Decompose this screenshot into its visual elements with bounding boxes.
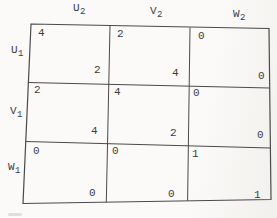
cell-v1-u2-top-left-value: 2 — [34, 85, 41, 96]
column-header-u2-sub: 2 — [80, 7, 85, 17]
cell-u1-u2-top-left-value: 4 — [38, 28, 45, 39]
cell-v1-w2-bottom-right-value: 0 — [257, 130, 264, 141]
scan-artifact — [8, 213, 22, 216]
cell-w1-v2-top-left-value: 0 — [112, 146, 119, 157]
row-header-v1-base: V — [10, 105, 17, 117]
column-header-v2: V2 — [150, 6, 162, 17]
cell-v1-w2-top-left-value: 0 — [193, 88, 200, 99]
payoff-matrix-figure: U2 V2 W2 U1 V1 W1 4 2 2 4 0 0 2 4 4 2 0 … — [0, 0, 277, 218]
cell-v1-v2-bottom-right-value: 2 — [170, 128, 177, 139]
cell-u1-u2-bottom-right-value: 2 — [94, 65, 101, 76]
column-header-u2: U2 — [73, 3, 85, 14]
column-header-v2-base: V — [150, 5, 157, 17]
row-divider-1 — [28, 83, 269, 89]
row-divider-2 — [26, 142, 271, 149]
row-header-w1-sub: 1 — [15, 166, 20, 176]
cell-u1-w2-top-left-value: 0 — [198, 31, 205, 42]
row-header-w1: W1 — [8, 162, 20, 173]
cell-w1-v2-bottom-right-value: 0 — [168, 189, 175, 200]
row-header-v1: V1 — [10, 106, 22, 117]
cell-v1-u2-bottom-right-value: 4 — [91, 126, 98, 137]
row-header-w1-base: W — [8, 161, 15, 173]
row-header-u1-sub: 1 — [18, 49, 23, 59]
column-header-w2: W2 — [233, 9, 245, 20]
column-header-w2-base: W — [233, 8, 240, 20]
matrix-outer-border — [23, 24, 271, 204]
cell-u1-v2-bottom-right-value: 4 — [172, 68, 179, 79]
row-header-u1: U1 — [11, 45, 23, 56]
row-header-u1-base: U — [11, 44, 18, 56]
cell-w1-u2-bottom-right-value: 0 — [89, 188, 96, 199]
cell-u1-w2-bottom-right-value: 0 — [258, 71, 265, 82]
column-header-u2-base: U — [73, 2, 80, 14]
cell-w1-w2-bottom-right-value: 1 — [254, 190, 261, 201]
column-header-w2-sub: 2 — [240, 13, 245, 23]
column-divider-1 — [106, 26, 110, 203]
column-header-v2-sub: 2 — [157, 10, 162, 20]
cell-v1-v2-top-left-value: 4 — [114, 87, 121, 98]
row-header-v1-sub: 1 — [17, 110, 22, 120]
cell-w1-w2-top-left-value: 1 — [192, 149, 199, 160]
cell-u1-v2-top-left-value: 2 — [117, 29, 124, 40]
column-divider-2 — [188, 28, 190, 201]
cell-w1-u2-top-left-value: 0 — [33, 146, 40, 157]
